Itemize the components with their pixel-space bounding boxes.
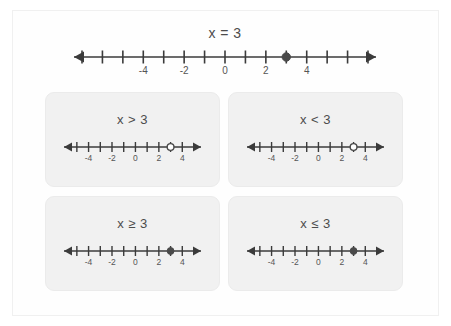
arrow-left-icon	[247, 247, 255, 256]
axis-tick-label: 2	[339, 257, 344, 267]
axis-tick-label: 0	[316, 257, 321, 267]
arrow-right-icon	[193, 143, 201, 152]
inequality-number-lines-figure: x = 3 -4-2024 x > 3 -4-2024 x < 3 -4-202…	[0, 0, 451, 326]
closed-point-marker	[167, 248, 174, 255]
number-line-greater-equal: -4-2024	[55, 240, 210, 274]
axis-tick-label: 4	[363, 153, 368, 163]
axis-tick-label: -2	[108, 153, 116, 163]
number-line-svg: -4-2024	[238, 136, 393, 170]
axis-tick-label: 4	[363, 257, 368, 267]
number-line-svg: -4-2024	[55, 136, 210, 170]
closed-point-marker	[282, 53, 290, 61]
axis-tick-label: 4	[180, 153, 185, 163]
card-less-than: x < 3 -4-2024	[228, 92, 403, 187]
axis-tick-label: 2	[156, 257, 161, 267]
card-greater-equal: x ≥ 3 -4-2024	[45, 196, 220, 291]
open-point-marker	[167, 144, 174, 151]
card-label-less-than: x < 3	[229, 111, 402, 128]
arrow-left-icon	[64, 247, 72, 256]
number-line-less-equal: -4-2024	[238, 240, 393, 274]
axis-tick-label: 0	[133, 153, 138, 163]
arrow-right-icon	[376, 247, 384, 256]
arrow-right-icon	[193, 247, 201, 256]
axis-tick-label: -4	[85, 153, 93, 163]
axis-tick-label: 4	[180, 257, 185, 267]
card-less-equal: x ≤ 3 -4-2024	[228, 196, 403, 291]
number-line-svg: -4-2024	[55, 240, 210, 274]
number-line-svg: -4-2024	[238, 240, 393, 274]
axis-tick-label: 0	[316, 153, 321, 163]
axis-tick-label: -4	[268, 153, 276, 163]
axis-tick-label: 0	[133, 257, 138, 267]
axis-tick-label: 2	[339, 153, 344, 163]
main-equation-label: x = 3	[60, 24, 390, 42]
axis-tick-label: -4	[139, 65, 148, 76]
main-number-line: -4-2024	[60, 44, 390, 84]
axis-tick-label: -2	[291, 257, 299, 267]
axis-tick-label: 4	[304, 65, 310, 76]
number-line-greater-than: -4-2024	[55, 136, 210, 170]
card-greater-than: x > 3 -4-2024	[45, 92, 220, 187]
axis-tick-label: -4	[85, 257, 93, 267]
arrow-left-icon	[247, 143, 255, 152]
axis-tick-label: -2	[180, 65, 189, 76]
card-label-greater-than: x > 3	[46, 111, 219, 128]
number-line-less-than: -4-2024	[238, 136, 393, 170]
closed-point-marker	[350, 248, 357, 255]
open-point-marker	[350, 144, 357, 151]
axis-tick-label: -2	[108, 257, 116, 267]
axis-tick-label: 2	[156, 153, 161, 163]
axis-tick-label: -2	[291, 153, 299, 163]
axis-tick-label: 2	[263, 65, 269, 76]
axis-tick-label: 0	[222, 65, 228, 76]
main-equation-block: x = 3 -4-2024	[60, 24, 390, 84]
arrow-left-icon	[64, 143, 72, 152]
arrow-right-icon	[376, 143, 384, 152]
number-line-svg: -4-2024	[60, 44, 390, 84]
card-label-greater-equal: x ≥ 3	[46, 215, 219, 232]
card-label-less-equal: x ≤ 3	[229, 215, 402, 232]
axis-tick-label: -4	[268, 257, 276, 267]
